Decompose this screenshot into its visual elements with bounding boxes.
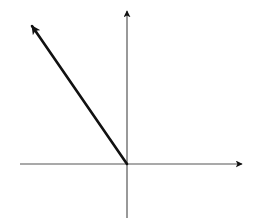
background [0, 0, 264, 222]
diagram-canvas [0, 0, 264, 222]
